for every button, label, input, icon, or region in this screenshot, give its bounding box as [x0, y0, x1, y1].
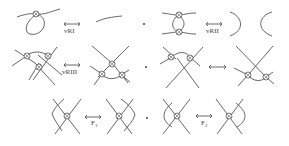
move-label-vri: vRI: [64, 27, 75, 35]
vri-left-diagram: [17, 9, 60, 34]
separator-dot: [146, 117, 148, 119]
virtual-crossing-icon: [36, 64, 42, 70]
vrii-arrow: [206, 22, 222, 26]
virtual-crossing-icon: [245, 72, 251, 78]
move-label-f2: F2: [201, 119, 207, 128]
vrii-left-diagram: [162, 12, 196, 35]
virtual-crossing-icon: [263, 74, 269, 80]
mixed-right-diagram: [234, 46, 274, 86]
move-label-f1: F1: [91, 119, 97, 128]
virtual-crossing-icon: [226, 113, 232, 119]
mixed-left-diagram: [160, 47, 203, 88]
virtual-crossing-icon: [168, 54, 174, 60]
virtual-crossing-icon: [109, 61, 115, 67]
f2-right-diagram: [216, 99, 245, 134]
virtual-crossing-icon: [116, 113, 122, 119]
vrii-right-diagram: [230, 12, 272, 36]
virtual-reidemeister-moves-diagram: [0, 0, 289, 146]
virtual-crossing-icon: [45, 53, 51, 59]
vri-arrow: [64, 22, 80, 26]
move-label-vriii: vRIII: [62, 68, 77, 76]
virtual-crossing-icon: [24, 53, 30, 59]
vriii-right-diagram: [90, 46, 130, 85]
vri-right-diagram: [96, 16, 122, 22]
virtual-crossing-icon: [174, 113, 180, 119]
f1-right-diagram: [106, 99, 135, 134]
virtual-crossing-icon: [64, 113, 70, 119]
separator-dot: [145, 66, 147, 68]
virtual-crossing-icon: [187, 55, 193, 61]
f1-left-diagram: [52, 99, 81, 134]
virtual-crossing-icon: [33, 11, 39, 17]
virtual-crossing-icon: [176, 29, 182, 35]
virtual-crossing-icon: [99, 71, 105, 77]
move-label-vrii: vRII: [206, 27, 219, 35]
separator-dot: [143, 23, 145, 25]
mixed-arrow: [209, 65, 226, 69]
f2-left-diagram: [163, 99, 190, 134]
f2-arrow: [196, 114, 212, 118]
vriii-left-diagram: [12, 47, 62, 85]
virtual-crossing-icon: [119, 72, 125, 78]
virtual-crossing-icon: [176, 12, 182, 18]
vriii-arrow: [64, 63, 80, 67]
